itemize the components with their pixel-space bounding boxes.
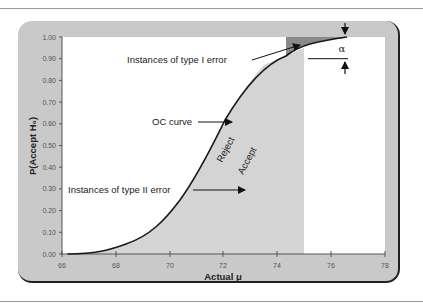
alpha-label: α <box>339 43 346 54</box>
x-tick-label: 74 <box>273 262 281 269</box>
y-tick-label: 0.30 <box>42 185 56 192</box>
type1-error-label: Instances of type I error <box>127 54 227 65</box>
x-tick-label: 78 <box>381 262 389 269</box>
y-tick-label: 0.70 <box>42 99 56 106</box>
y-tick-label: 0.60 <box>42 120 56 127</box>
y-tick-labels: 0.00 0.10 0.20 0.30 0.40 0.50 0.60 0.70 … <box>42 34 56 258</box>
y-tick-label: 0.00 <box>42 251 56 258</box>
y-tick-label: 0.40 <box>42 164 56 171</box>
oc-curve-label: OC curve <box>152 116 192 127</box>
x-tick-label: 76 <box>327 262 335 269</box>
x-tick-labels: 66 68 70 72 74 76 78 <box>58 262 389 269</box>
type2-error-label: Instances of type II error <box>68 184 170 195</box>
x-axis-title: Actual μ <box>204 271 242 282</box>
y-tick-label: 0.50 <box>42 142 56 149</box>
x-tick-label: 66 <box>58 262 66 269</box>
x-tick-label: 72 <box>219 262 227 269</box>
x-tick-label: 68 <box>112 262 120 269</box>
y-axis-title: P(Accept H₀) <box>27 117 38 175</box>
y-tick-label: 0.80 <box>42 77 56 84</box>
x-tick-label: 70 <box>166 262 174 269</box>
y-tick-label: 0.10 <box>42 229 56 236</box>
oc-chart: 0.00 0.10 0.20 0.30 0.40 0.50 0.60 0.70 … <box>0 0 423 308</box>
y-tick-label: 0.20 <box>42 207 56 214</box>
y-tick-label: 1.00 <box>42 34 56 41</box>
y-tick-label: 0.90 <box>42 55 56 62</box>
